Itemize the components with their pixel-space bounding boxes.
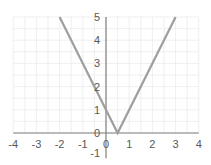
y-tick-label: 5	[94, 11, 100, 23]
x-tick-label: 0	[103, 138, 109, 150]
x-tick-label: -2	[55, 138, 65, 150]
y-axis-tick-labels: -1012345	[90, 11, 100, 159]
x-axis-tick-labels: -4-3-2-101234	[8, 138, 202, 150]
x-tick-label: 2	[149, 138, 155, 150]
y-tick-label: 3	[94, 57, 100, 69]
line-chart: -4-3-2-101234 -1012345	[0, 0, 211, 165]
x-tick-label: -4	[8, 138, 18, 150]
y-tick-label: 0	[94, 127, 100, 139]
x-tick-label: -3	[32, 138, 42, 150]
y-tick-label: 1	[94, 104, 100, 116]
x-tick-label: 4	[196, 138, 202, 150]
x-tick-label: 3	[173, 138, 179, 150]
y-tick-label: 2	[94, 81, 100, 93]
y-tick-label: -1	[90, 147, 100, 159]
y-tick-label: 4	[94, 34, 100, 46]
x-tick-label: 1	[126, 138, 132, 150]
x-tick-label: -1	[78, 138, 88, 150]
